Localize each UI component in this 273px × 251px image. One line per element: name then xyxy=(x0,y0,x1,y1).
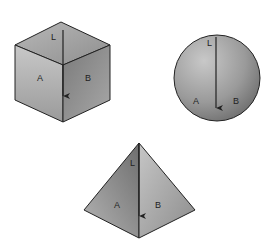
diagram-canvas: L A B L A B L A B xyxy=(0,0,273,251)
pyramid-label-a: A xyxy=(114,200,120,210)
sphere-label-b: B xyxy=(233,96,239,106)
pyramid-label-l: L xyxy=(130,158,135,168)
pyramid-label-b: B xyxy=(155,200,161,210)
cube-label-l: L xyxy=(51,32,56,42)
sphere-shape: L A B xyxy=(174,35,260,121)
cube-label-b: B xyxy=(85,73,91,83)
pyramid-face-b xyxy=(139,143,195,238)
cube-shape: L A B xyxy=(15,22,110,122)
sphere-label-l: L xyxy=(207,38,212,48)
sphere-label-a: A xyxy=(193,96,199,106)
cube-label-a: A xyxy=(37,73,43,83)
sphere-body xyxy=(174,35,260,121)
pyramid-shape: L A B xyxy=(84,143,195,238)
